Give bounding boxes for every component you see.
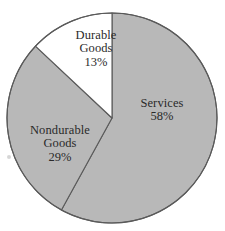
pie-label-services-line1: Services <box>131 97 193 110</box>
pie-chart-figure: Durable Goods 13% Services 58% Nondurabl… <box>0 0 225 231</box>
pie-label-services: Services 58% <box>131 97 193 124</box>
pie-label-durable-goods-line2: Goods <box>62 42 130 55</box>
pie-label-nondurable-goods-value: 29% <box>18 151 102 164</box>
pie-label-durable-goods-line1: Durable <box>62 29 130 42</box>
scan-artifact-smudge <box>7 155 11 159</box>
pie-label-nondurable-goods-line1: Nondurable <box>18 124 102 137</box>
pie-label-services-value: 58% <box>131 110 193 123</box>
pie-label-nondurable-goods-line2: Goods <box>18 137 102 150</box>
pie-label-durable-goods-value: 13% <box>62 56 130 69</box>
pie-label-durable-goods: Durable Goods 13% <box>62 29 130 69</box>
pie-label-nondurable-goods: Nondurable Goods 29% <box>18 124 102 164</box>
